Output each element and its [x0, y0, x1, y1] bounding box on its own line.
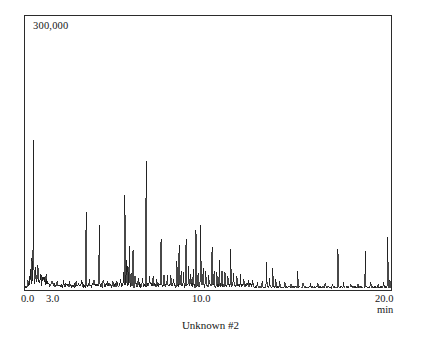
y-scale-label: 300,000 [33, 19, 69, 32]
x-tick-label-10: 10.0 [192, 293, 210, 305]
plot-frame [24, 15, 392, 291]
chromatogram-figure: 300,000 0.0 3.0 10.0 20.0 min Unknown #2 [0, 0, 421, 344]
x-axis-unit-label: min [377, 304, 393, 316]
figure-caption: Unknown #2 [0, 318, 421, 332]
x-tick-label-0: 0.0 [21, 293, 34, 305]
x-tick-label-3: 3.0 [46, 293, 59, 305]
trace-path [25, 140, 391, 288]
chromatogram-trace [25, 16, 391, 290]
